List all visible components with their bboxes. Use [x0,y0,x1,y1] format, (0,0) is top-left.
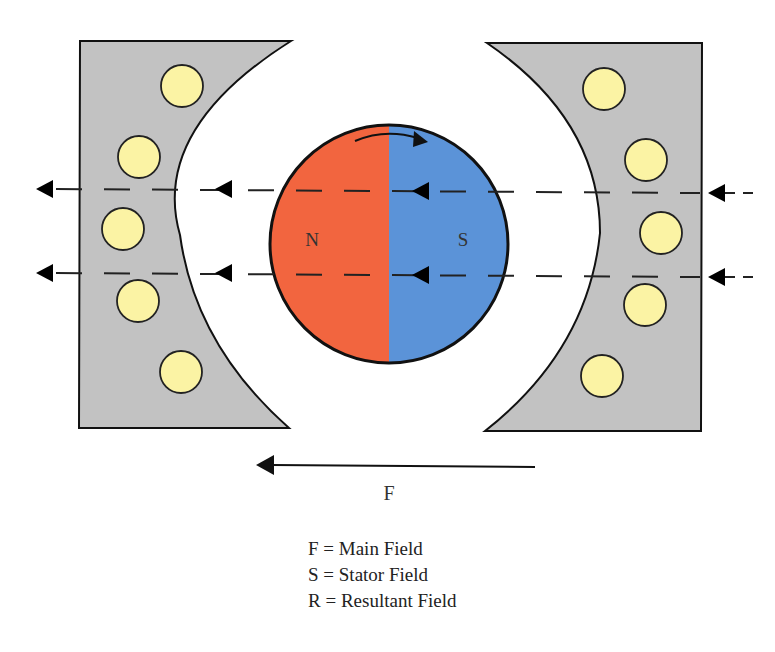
legend-item-stator-field: S = Stator Field [308,562,456,588]
main-field-label: F [383,482,394,504]
conductor-icon [161,65,203,107]
conductor-icon [625,139,667,181]
legend-item-resultant-field: R = Resultant Field [308,588,456,614]
arrow-left-icon [708,268,725,286]
rotor-north-half [268,124,389,364]
arrow-left-icon [215,180,232,198]
conductor-icon [118,136,160,178]
arrow-left-icon [256,455,274,475]
legend-item-main-field: F = Main Field [308,536,456,562]
legend: F = Main Field S = Stator Field R = Resu… [308,536,456,614]
arrow-left-icon [708,184,725,202]
conductor-icon [160,351,202,393]
rotor-south-half [389,124,510,364]
conductor-icon [581,355,623,397]
arrow-left-icon [36,180,53,198]
conductor-icon [583,68,625,110]
north-pole-label: N [305,229,319,250]
main-field-arrow: F [256,455,535,504]
arrow-left-icon [215,264,232,282]
arrow-left-icon [36,264,53,282]
conductor-icon [117,280,159,322]
conductor-icon [102,208,144,250]
rotor: N S [268,124,510,364]
conductor-icon [624,284,666,326]
south-pole-label: S [458,229,469,250]
conductor-icon [640,212,682,254]
